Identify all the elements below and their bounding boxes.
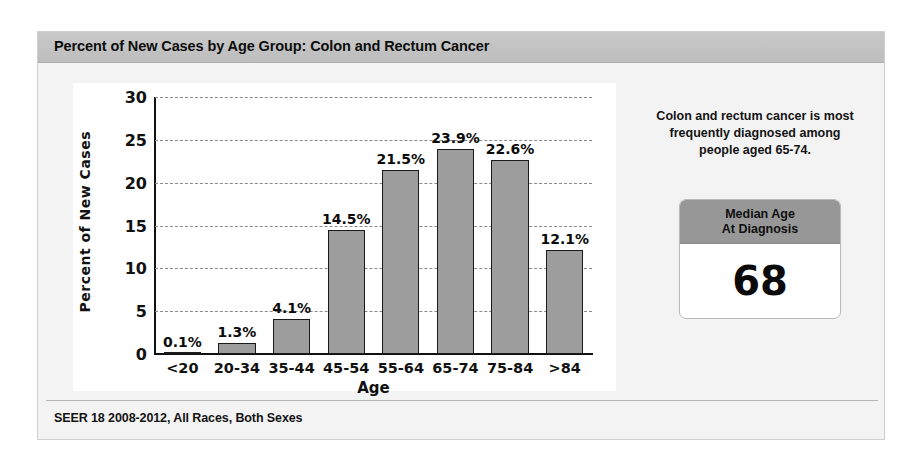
bar-slot: 0.1%<20 [155, 97, 210, 354]
bar[interactable] [218, 343, 255, 354]
x-axis-tick-label: 55-64 [378, 360, 424, 376]
plot-area: 051015202530 0.1%<201.3%20-344.1%35-4414… [155, 97, 592, 354]
x-axis-title: Age [155, 379, 592, 397]
chart-card: Percent of New Cases by Age Group: Colon… [37, 31, 885, 440]
bar-slot: 22.6%75-84 [483, 97, 538, 354]
x-axis-tick-label: >84 [549, 360, 581, 376]
bar-slot: 21.5%55-64 [374, 97, 429, 354]
bar-slot: 12.1%>84 [537, 97, 592, 354]
card-title-bar: Percent of New Cases by Age Group: Colon… [38, 32, 884, 63]
y-axis-tick-label: 20 [125, 173, 147, 192]
y-axis-title: Percent of New Cases [77, 131, 99, 312]
bar[interactable] [328, 230, 365, 354]
bar-slot: 4.1%35-44 [264, 97, 319, 354]
y-axis-tick-label: 10 [125, 259, 147, 278]
y-axis-tick-label: 30 [125, 88, 147, 107]
bar-value-label: 22.6% [486, 141, 535, 157]
bar-value-label: 12.1% [540, 231, 589, 247]
bar-slot: 1.3%20-34 [210, 97, 265, 354]
x-axis-tick-label: 75-84 [487, 360, 533, 376]
y-axis-tick-label: 0 [136, 345, 147, 364]
x-axis-tick-label: 35-44 [268, 360, 314, 376]
y-axis-tick-label: 15 [125, 216, 147, 235]
x-axis-tick-label: 45-54 [323, 360, 369, 376]
bar-value-label: 4.1% [272, 300, 311, 316]
y-axis-tick-label: 25 [125, 130, 147, 149]
page-title: Percent of New Cases by Age Group: Colon… [54, 38, 489, 54]
x-axis-tick-label: 65-74 [432, 360, 478, 376]
y-axis-tick-label: 5 [136, 302, 147, 321]
footer-divider [46, 400, 878, 401]
median-age-box-header: Median Age At Diagnosis [680, 200, 840, 244]
bar-slot: 23.9%65-74 [428, 97, 483, 354]
bar[interactable] [382, 170, 419, 354]
median-age-box: Median Age At Diagnosis 68 [679, 199, 841, 319]
bar-slot: 14.5%45-54 [319, 97, 374, 354]
footer-source-text: SEER 18 2008-2012, All Races, Both Sexes [54, 411, 302, 425]
bar[interactable] [273, 319, 310, 354]
bar-value-label: 23.9% [431, 130, 480, 146]
median-age-header-line-1: Median Age [725, 207, 795, 222]
bar[interactable] [164, 352, 201, 354]
bar[interactable] [546, 250, 583, 354]
bar-value-label: 21.5% [377, 151, 426, 167]
bar-value-label: 14.5% [322, 211, 371, 227]
x-axis-tick-label: 20-34 [214, 360, 260, 376]
median-age-header-line-2: At Diagnosis [722, 222, 798, 237]
bar-value-label: 1.3% [218, 324, 257, 340]
bar[interactable] [491, 160, 528, 354]
side-note-text: Colon and rectum cancer is most frequent… [650, 108, 860, 159]
x-axis-tick-label: <20 [166, 360, 198, 376]
chart-panel: Percent of New Cases 051015202530 0.1%<2… [73, 83, 616, 391]
bar[interactable] [437, 149, 474, 354]
median-age-value: 68 [680, 244, 840, 318]
bar-value-label: 0.1% [163, 334, 202, 350]
